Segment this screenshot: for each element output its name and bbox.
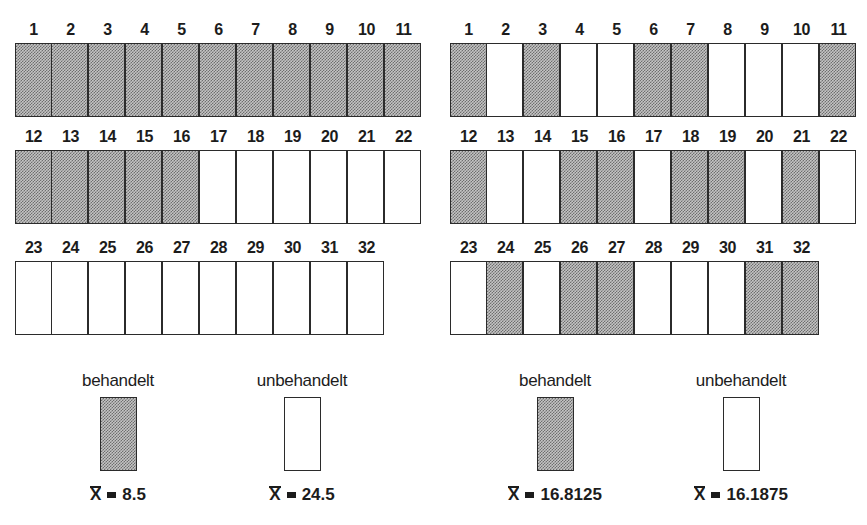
plot-5: 5 bbox=[163, 21, 200, 117]
plot-17: 17 bbox=[200, 128, 237, 224]
plot-16: 16 bbox=[163, 128, 200, 224]
treated-plot bbox=[450, 150, 487, 224]
equals-sign bbox=[711, 492, 720, 498]
plot-5: 5 bbox=[598, 21, 635, 117]
grid-row-2: 1213141516171819202122 bbox=[15, 128, 422, 224]
treated-plot bbox=[51, 43, 88, 117]
plot-8: 8 bbox=[709, 21, 746, 117]
plot-number: 20 bbox=[756, 128, 773, 150]
xbar-symbol: X bbox=[90, 485, 101, 505]
untreated-plot bbox=[708, 43, 745, 117]
plot-17: 17 bbox=[635, 128, 672, 224]
plot-number: 4 bbox=[575, 21, 583, 43]
untreated-plot bbox=[51, 261, 88, 335]
systematic-layout-panel: 1234567891011 1213141516171819202122 232… bbox=[0, 0, 430, 525]
legend-treated: behandelt X 8.5 bbox=[48, 371, 188, 505]
plot-number: 14 bbox=[99, 128, 116, 150]
plot-number: 31 bbox=[756, 239, 773, 261]
plot-number: 6 bbox=[649, 21, 657, 43]
equals-sign bbox=[107, 492, 116, 498]
untreated-plot bbox=[347, 261, 384, 335]
plot-number: 2 bbox=[66, 21, 74, 43]
treated-plot bbox=[125, 150, 162, 224]
untreated-plot bbox=[560, 43, 597, 117]
plot-number: 2 bbox=[501, 21, 509, 43]
treated-plot bbox=[671, 43, 708, 117]
treated-plot bbox=[560, 261, 597, 335]
plot-number: 13 bbox=[62, 128, 79, 150]
plot-19: 19 bbox=[709, 128, 746, 224]
plot-number: 24 bbox=[497, 239, 514, 261]
plot-26: 26 bbox=[126, 239, 163, 335]
plot-number: 30 bbox=[719, 239, 736, 261]
plot-number: 26 bbox=[571, 239, 588, 261]
mean-untreated: X 16.1875 bbox=[694, 485, 788, 505]
legend-untreated: unbehandelt X 16.1875 bbox=[671, 371, 811, 505]
plot-number: 9 bbox=[760, 21, 768, 43]
plot-6: 6 bbox=[635, 21, 672, 117]
plot-13: 13 bbox=[487, 128, 524, 224]
plot-number: 29 bbox=[682, 239, 699, 261]
treated-plot bbox=[199, 43, 236, 117]
legend-untreated-swatch bbox=[284, 397, 321, 471]
untreated-plot bbox=[310, 261, 347, 335]
equals-sign bbox=[525, 492, 534, 498]
legend-treated-label: behandelt bbox=[82, 371, 154, 397]
plot-22: 22 bbox=[385, 128, 422, 224]
untreated-plot bbox=[310, 150, 347, 224]
treated-plot bbox=[782, 261, 819, 335]
plot-number: 15 bbox=[571, 128, 588, 150]
untreated-plot bbox=[88, 261, 125, 335]
plot-number: 18 bbox=[682, 128, 699, 150]
plot-28: 28 bbox=[635, 239, 672, 335]
plot-number: 4 bbox=[140, 21, 148, 43]
legend-treated-swatch bbox=[100, 397, 137, 471]
untreated-plot bbox=[199, 150, 236, 224]
untreated-plot bbox=[597, 43, 634, 117]
plot-32: 32 bbox=[783, 239, 820, 335]
plot-15: 15 bbox=[126, 128, 163, 224]
plot-number: 30 bbox=[284, 239, 301, 261]
plot-18: 18 bbox=[672, 128, 709, 224]
plot-7: 7 bbox=[672, 21, 709, 117]
plot-11: 11 bbox=[385, 21, 422, 117]
untreated-plot bbox=[347, 150, 384, 224]
untreated-plot bbox=[162, 261, 199, 335]
plot-10: 10 bbox=[348, 21, 385, 117]
plot-28: 28 bbox=[200, 239, 237, 335]
xbar-symbol: X bbox=[508, 485, 519, 505]
randomized-layout-panel: 1234567891011 1213141516171819202122 232… bbox=[435, 0, 865, 525]
plot-14: 14 bbox=[524, 128, 561, 224]
treated-plot bbox=[236, 43, 273, 117]
untreated-plot bbox=[384, 150, 421, 224]
mean-untreated: X 24.5 bbox=[269, 485, 334, 505]
treated-plot bbox=[125, 43, 162, 117]
plot-number: 20 bbox=[321, 128, 338, 150]
plot-number: 5 bbox=[177, 21, 185, 43]
plot-number: 29 bbox=[247, 239, 264, 261]
plot-2: 2 bbox=[52, 21, 89, 117]
plot-1: 1 bbox=[450, 21, 487, 117]
legend-untreated-label: unbehandelt bbox=[696, 371, 786, 397]
plot-19: 19 bbox=[274, 128, 311, 224]
plot-20: 20 bbox=[311, 128, 348, 224]
treated-plot bbox=[15, 43, 52, 117]
plot-number: 31 bbox=[321, 239, 338, 261]
treated-plot bbox=[162, 150, 199, 224]
plot-number: 7 bbox=[686, 21, 694, 43]
plot-number: 6 bbox=[214, 21, 222, 43]
mean-treated: X 16.8125 bbox=[508, 485, 602, 505]
legend-untreated-swatch bbox=[723, 397, 760, 471]
treated-plot bbox=[671, 150, 708, 224]
plot-number: 18 bbox=[247, 128, 264, 150]
plot-32: 32 bbox=[348, 239, 385, 335]
treated-plot bbox=[819, 43, 856, 117]
mean-untreated-value: 24.5 bbox=[302, 485, 335, 505]
equals-sign bbox=[287, 492, 296, 498]
treated-plot bbox=[310, 43, 347, 117]
untreated-plot bbox=[671, 261, 708, 335]
untreated-plot bbox=[273, 150, 310, 224]
plot-number: 28 bbox=[210, 239, 227, 261]
treated-plot bbox=[708, 150, 745, 224]
plot-11: 11 bbox=[820, 21, 857, 117]
